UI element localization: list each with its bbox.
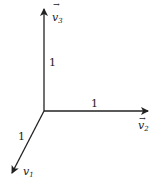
v3-accent: → <box>53 0 60 9</box>
vector-diagram: → v3 1 → v2 1 v1 1 <box>0 0 155 188</box>
v3-label: v3 <box>52 11 63 25</box>
vector-v1-arrow <box>12 111 44 173</box>
v2-label: v2 <box>138 119 149 133</box>
v1-length-label: 1 <box>18 130 25 143</box>
v1-label: v1 <box>23 165 34 179</box>
v3-length-label: 1 <box>49 56 56 69</box>
v2-length-label: 1 <box>91 97 98 110</box>
